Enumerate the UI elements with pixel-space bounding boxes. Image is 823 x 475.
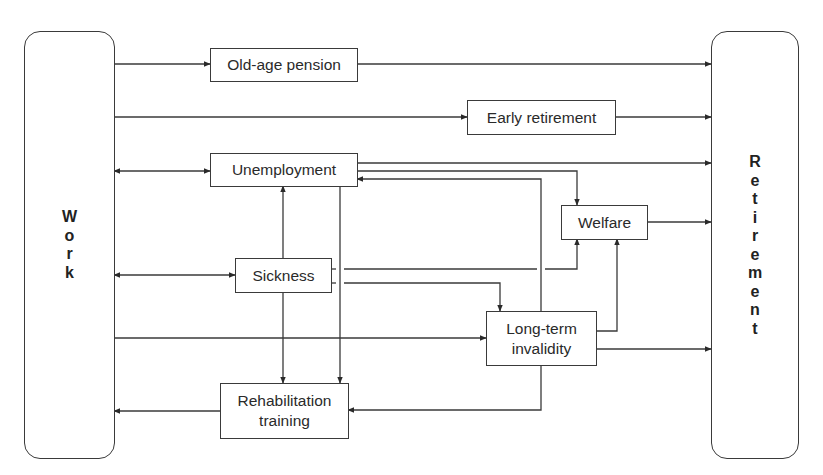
retirement-letter: r bbox=[752, 227, 758, 246]
retirement-letter: t bbox=[752, 320, 757, 339]
labour-market-exit-diagram: W o r k R e t i r e m e n t Old-age pens… bbox=[0, 0, 823, 475]
node-label: Long-term invalidity bbox=[506, 319, 577, 359]
node-sickness: Sickness bbox=[235, 258, 332, 293]
retirement-letter: n bbox=[750, 301, 760, 320]
node-rehabilitation-training: Rehabilitation training bbox=[220, 383, 349, 439]
edge-sickness-longterm-b bbox=[344, 283, 500, 311]
work-letter: o bbox=[65, 227, 75, 246]
retirement-letter: e bbox=[751, 246, 760, 265]
node-label: Early retirement bbox=[487, 108, 596, 128]
edge-sickness-welfare-c bbox=[545, 239, 577, 269]
edge-unemployment-welfare bbox=[357, 171, 577, 205]
node-early-retirement: Early retirement bbox=[467, 100, 616, 135]
retirement-label: R e t i r e m e n t bbox=[712, 153, 798, 338]
retirement-pillar: R e t i r e m e n t bbox=[711, 31, 799, 459]
retirement-letter: m bbox=[748, 264, 762, 283]
edge-longterm-rehab bbox=[348, 365, 541, 410]
work-label: W o r k bbox=[25, 208, 114, 282]
retirement-letter: R bbox=[749, 153, 761, 172]
retirement-letter: t bbox=[752, 190, 757, 209]
work-pillar: W o r k bbox=[24, 31, 115, 459]
connector-layer bbox=[0, 0, 823, 475]
work-letter: k bbox=[65, 264, 74, 283]
retirement-letter: e bbox=[751, 283, 760, 302]
retirement-letter: i bbox=[753, 209, 757, 228]
work-letter: r bbox=[66, 245, 72, 264]
node-label: Sickness bbox=[252, 266, 314, 286]
work-letter: W bbox=[62, 208, 77, 227]
node-old-age-pension: Old-age pension bbox=[210, 48, 358, 82]
edge-longterm-welfare bbox=[596, 239, 617, 331]
node-label: Welfare bbox=[578, 213, 631, 233]
node-welfare: Welfare bbox=[561, 205, 648, 240]
node-label: Unemployment bbox=[232, 160, 336, 180]
edge-longterm-unemployment bbox=[357, 179, 541, 311]
retirement-letter: e bbox=[751, 172, 760, 191]
node-unemployment: Unemployment bbox=[210, 153, 358, 187]
node-label: Rehabilitation training bbox=[238, 391, 332, 431]
node-label: Old-age pension bbox=[227, 55, 341, 75]
node-long-term-invalidity: Long-term invalidity bbox=[486, 311, 597, 366]
